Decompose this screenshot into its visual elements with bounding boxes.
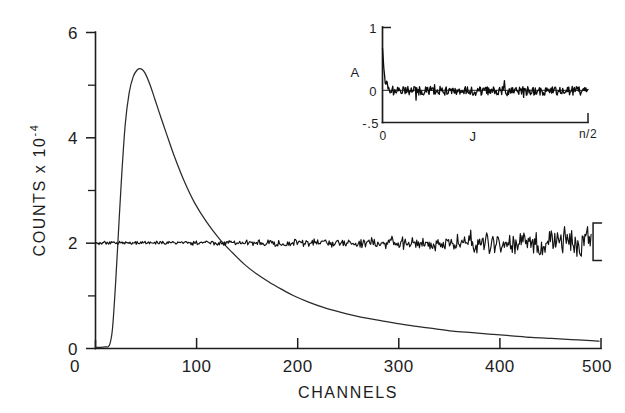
- figure-canvas: 6 4 2 0 0 100 200 300 400 500 CHANNELS: [0, 0, 625, 413]
- inset-y-axis-title: A: [350, 65, 359, 80]
- x-tick-label-300: 300: [384, 357, 414, 376]
- x-tick-label-200: 200: [283, 357, 313, 376]
- chart-svg: 6 4 2 0 0 100 200 300 400 500 CHANNELS: [0, 0, 625, 413]
- main-plot: 6 4 2 0 0 100 200 300 400 500 CHANNELS: [28, 24, 612, 401]
- y-tick-label-2: 2: [68, 234, 78, 253]
- inset-y-tick-label-1: 1: [369, 21, 377, 36]
- x-tick-label-500: 500: [582, 357, 612, 376]
- residual-noise-trace: [96, 226, 592, 256]
- y-axis-title-group: COUNTS x 10-4: [28, 124, 48, 257]
- counts-spectrum-curve: [96, 69, 600, 348]
- x-axis-title: CHANNELS: [298, 384, 398, 401]
- inset-plot: 1 0 -.5 A 0 n/2 J: [350, 21, 597, 144]
- x-origin-label: 0: [70, 357, 80, 376]
- y-tick-label-6: 6: [68, 24, 78, 43]
- inset-x-axis-title: J: [470, 129, 477, 144]
- inset-x-tick-label-right: n/2: [579, 127, 597, 141]
- inset-autocorrelation-trace: [383, 48, 589, 100]
- x-tick-label-400: 400: [485, 357, 515, 376]
- error-bracket-marker: [593, 223, 602, 260]
- x-axis-ticks: [96, 338, 602, 349]
- y-axis-title: COUNTS x 10-4: [28, 124, 48, 257]
- inset-x-tick-label-0: 0: [379, 129, 386, 143]
- inset-y-tick-label-0: 0: [369, 84, 377, 99]
- x-tick-label-100: 100: [182, 357, 212, 376]
- y-tick-label-4: 4: [68, 129, 78, 148]
- inset-y-tick-label-neg: -.5: [362, 116, 379, 131]
